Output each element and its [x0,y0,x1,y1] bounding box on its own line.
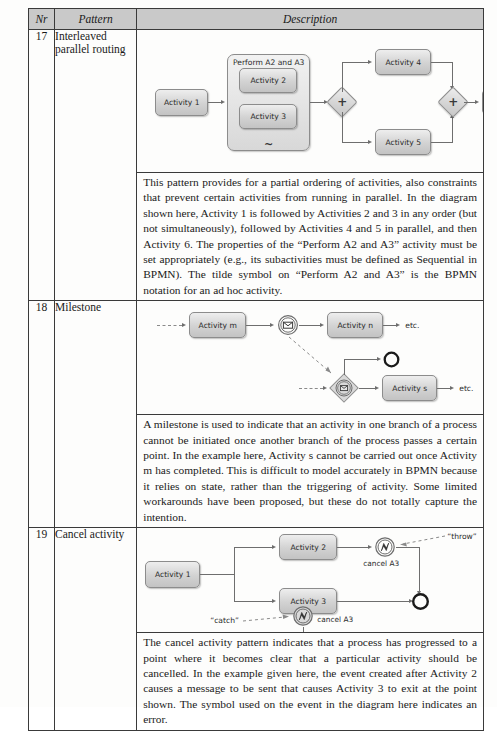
connector [337,547,369,548]
row-pattern-name: Milestone [55,301,137,528]
table-row: 17 Interleaved parallel routing Activity… [29,30,484,301]
etc-label: etc. [459,384,473,393]
annotation-throw-label: “throw” [447,532,476,541]
connector [344,359,378,360]
gateway-plus-icon: + [331,91,353,113]
event-end-icon [383,351,400,368]
connector [452,62,453,88]
arrow-icon [320,323,324,327]
connector [431,142,453,143]
event-label-cancel-a3: cancel A3 [317,615,353,624]
row-pattern-name: Interleaved parallel routing [55,30,137,301]
row-description-cell: Activity 1 Perform A2 and A3 ~ Activity … [137,30,484,301]
row-description-cell: Activity 1 Activity 2 Activity 3 [137,528,484,730]
gateway-event-based-icon [329,373,359,403]
row-description-text: The cancel activity pattern indicates th… [137,633,483,729]
event-message-throw-icon [277,314,299,336]
task-activity-4: Activity 4 [375,49,431,75]
row-number: 19 [29,528,55,730]
dashed-connector [299,388,323,389]
connector [303,627,304,632]
arrow-icon [475,100,479,104]
arrow-icon [221,100,225,104]
column-header-description: Description [137,9,484,30]
connector [208,102,222,103]
arrow-icon [272,545,276,549]
connector [200,574,235,575]
column-header-pattern: Pattern [55,9,137,30]
task-activity-5: Activity 5 [375,129,431,155]
subprocess-label: Perform A2 and A3 [228,58,309,67]
connector [299,325,321,326]
arrow-icon [270,323,274,327]
connector [452,117,453,143]
table-row: 19 Cancel activity Activity 1 Activity 2 [29,528,484,730]
bpmn-diagram-interleaved-parallel-routing: Activity 1 Perform A2 and A3 ~ Activity … [137,30,483,173]
connector [234,547,273,548]
dashed-annotation-throw [395,534,447,548]
event-error-catch-icon [292,605,314,627]
bpmn-diagram-cancel-activity: Activity 1 Activity 2 Activity 3 [137,528,483,633]
connector [337,601,411,602]
event-end-icon [411,592,430,611]
task-activity-m: Activity m [189,312,246,338]
table-header-row: Nr Pattern Description [29,9,484,30]
connector [342,62,369,63]
arrow-icon [368,60,372,64]
connector [431,62,453,63]
task-activity-2: Activity 2 [239,68,297,93]
connector [342,62,343,92]
annotation-catch-label: “catch” [210,616,239,625]
arrow-icon [377,357,381,361]
connector [310,102,325,103]
row-description-cell: Activity m Activity n et [137,301,484,528]
arrow-icon [375,386,379,390]
connector [234,547,235,602]
table-header: Nr Pattern Description [29,9,484,30]
task-activity-s: Activity s [382,375,437,401]
arrow-icon [272,599,276,603]
dashed-connector [157,325,182,326]
task-activity-6: Activity 6 [482,89,483,115]
table-row: 18 Milestone Activity m [29,301,484,528]
bpmn-diagram-milestone: Activity m Activity n et [137,301,483,415]
connector [383,325,397,326]
arrow-icon [396,323,400,327]
connector [234,601,273,602]
arrow-icon [182,323,186,327]
dashed-annotation-catch [241,612,293,626]
task-activity-3: Activity 3 [239,104,297,129]
row-pattern-name: Cancel activity [55,528,137,730]
event-error-throw-icon [374,536,396,558]
row-description-text: A milestone is used to indicate that an … [137,415,483,527]
task-activity-2: Activity 2 [279,534,337,560]
arrow-icon [368,140,372,144]
arrow-icon [368,545,372,549]
connector [359,388,376,389]
row-description-text: This pattern provides for a partial orde… [137,173,483,300]
table-body: 17 Interleaved parallel routing Activity… [29,30,484,731]
ad-hoc-marker-icon: ~ [228,140,309,150]
etc-label: etc. [405,321,419,330]
gateway-plus-icon: + [442,91,464,113]
row-number: 18 [29,301,55,528]
workflow-pattern-table: Nr Pattern Description 17 Interleaved pa… [28,8,484,731]
connector [342,112,343,143]
connector [246,325,271,326]
arrow-icon [323,386,327,390]
event-label-cancel-a3: cancel A3 [363,559,399,568]
arrow-icon [450,386,454,390]
row-number: 17 [29,30,55,301]
task-activity-1: Activity 1 [145,561,200,588]
task-activity-1: Activity 1 [155,89,208,116]
connector [419,547,420,593]
connector [437,388,451,389]
connector [344,359,345,375]
connector [342,142,369,143]
column-header-nr: Nr [29,9,55,30]
connector [396,547,420,548]
